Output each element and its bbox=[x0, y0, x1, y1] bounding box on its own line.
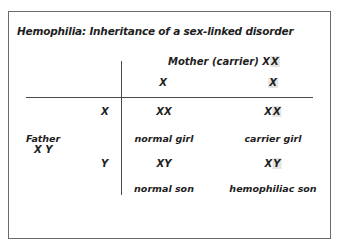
allele-y: Y bbox=[272, 158, 281, 169]
horizontal-divider bbox=[26, 97, 313, 98]
father-label: Father bbox=[26, 134, 60, 144]
mother-label: Mother (carrier) bbox=[168, 56, 259, 67]
cell-normal-son-genotype: XY bbox=[157, 159, 172, 169]
father-genotype: X Y bbox=[34, 145, 52, 155]
diagram-title: Hemophilia: Inheritance of a sex-linked … bbox=[17, 26, 293, 37]
allele-x: X bbox=[265, 158, 273, 169]
cell-carrier-girl-label: carrier girl bbox=[244, 134, 301, 144]
allele-x-carrier: X bbox=[272, 106, 282, 117]
mother-genotype-carrier-x: X bbox=[270, 56, 280, 67]
father-allele-y: Y bbox=[101, 159, 108, 169]
cell-hemophiliac-son-label: hemophiliac son bbox=[229, 184, 316, 194]
mother-allele-normal: X bbox=[159, 78, 167, 88]
mother-genotype-normal-x: X bbox=[262, 56, 270, 67]
allele-x: X bbox=[156, 106, 164, 117]
father-allele-x: X bbox=[101, 107, 109, 117]
diagram-frame bbox=[8, 11, 331, 239]
allele-x: X bbox=[164, 106, 172, 117]
mother-allele-carrier: X bbox=[268, 78, 278, 88]
vertical-divider bbox=[121, 61, 122, 195]
allele-x: X bbox=[264, 106, 272, 117]
cell-normal-girl-label: normal girl bbox=[135, 134, 194, 144]
cell-hemophiliac-son-genotype: XY bbox=[265, 159, 282, 169]
allele-x: X bbox=[157, 158, 165, 169]
allele-y: Y bbox=[164, 158, 171, 169]
cell-carrier-girl-genotype: XX bbox=[264, 107, 281, 117]
cell-normal-girl-genotype: XX bbox=[156, 107, 171, 117]
mother-header: Mother (carrier) XX bbox=[168, 57, 280, 67]
cell-normal-son-label: normal son bbox=[134, 184, 194, 194]
